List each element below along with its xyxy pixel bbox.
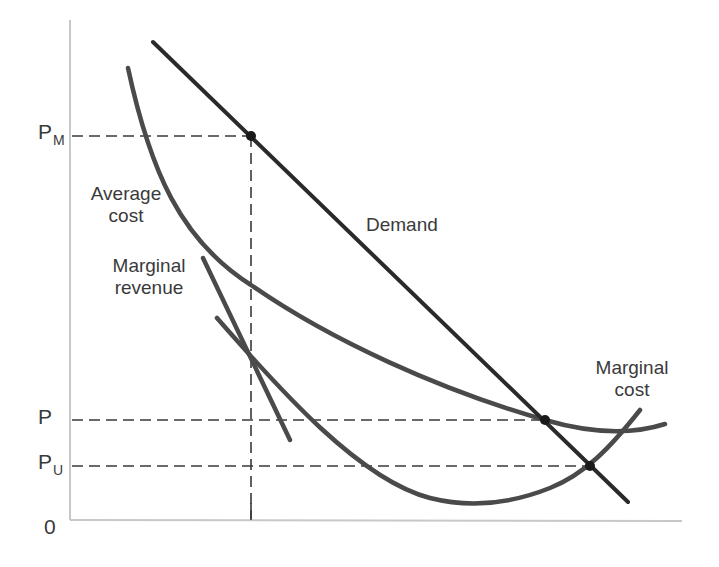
price-label-pm-subscript: M: [53, 132, 65, 148]
price-label-pm: PM: [38, 121, 65, 145]
price-label-pu: PU: [38, 451, 63, 475]
x-axis: [70, 520, 682, 521]
price-label-p-main: P: [38, 405, 52, 428]
price-label-pu-main: P: [38, 450, 52, 473]
demand-curve: [153, 42, 628, 502]
average-cost-label: Average cost: [80, 183, 172, 227]
marginal-revenue-label-line1: Marginal: [100, 255, 198, 277]
average-cost-label-line1: Average: [80, 183, 172, 205]
marginal-revenue-curve: [203, 258, 290, 440]
origin-label: 0: [44, 516, 56, 538]
marginal-revenue-label-line2: revenue: [100, 277, 198, 299]
price-label-p: P: [38, 406, 52, 428]
marginal-cost-label-line1: Marginal: [584, 357, 680, 379]
marginal-cost-pricing-point: [585, 461, 595, 471]
monopoly-pricing-diagram: PM P PU 0 Average cost Marginal revenue …: [0, 0, 719, 567]
average-cost-pricing-point: [540, 415, 550, 425]
demand-label: Demand: [366, 214, 438, 236]
marginal-cost-label-line2: cost: [584, 379, 680, 401]
monopoly-price-point: [246, 131, 256, 141]
marginal-cost-curve: [217, 318, 640, 503]
price-label-pm-main: P: [38, 120, 52, 143]
price-label-pu-subscript: U: [53, 462, 63, 478]
average-cost-label-line2: cost: [80, 205, 172, 227]
marginal-cost-label: Marginal cost: [584, 357, 680, 401]
marginal-revenue-label: Marginal revenue: [100, 255, 198, 299]
